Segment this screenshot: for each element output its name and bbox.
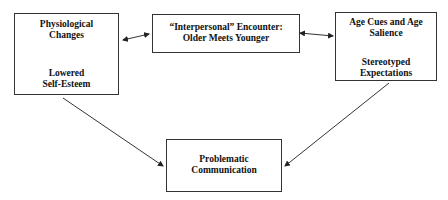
arrow-age-cues-to-problematic bbox=[285, 83, 389, 166]
label-line: Physiological bbox=[15, 19, 118, 30]
label-line: Lowered bbox=[15, 68, 118, 79]
lowered-self-esteem-label: Lowered Self-Esteem bbox=[15, 68, 118, 90]
label-line: “Interpersonal” Encounter: bbox=[153, 22, 299, 33]
physiological-changes-box: Physiological Changes Lowered Self-Estee… bbox=[14, 13, 119, 95]
bidirectional-arrow-right bbox=[300, 33, 333, 36]
label-line: Salience bbox=[336, 28, 436, 39]
age-cues-label: Age Cues and Age Salience bbox=[336, 17, 436, 39]
interpersonal-encounter-box: “Interpersonal” Encounter: Older Meets Y… bbox=[152, 14, 300, 53]
label-line: Age Cues and Age bbox=[336, 17, 436, 28]
arrow-physiological-to-problematic bbox=[63, 98, 163, 166]
age-cues-box: Age Cues and Age Salience Stereotyped Ex… bbox=[335, 12, 437, 81]
interpersonal-encounter-label: “Interpersonal” Encounter: Older Meets Y… bbox=[153, 22, 299, 44]
stereotyped-expectations-label: Stereotyped Expectations bbox=[336, 57, 436, 79]
label-line: Problematic bbox=[167, 154, 281, 165]
communication-model-diagram: Physiological Changes Lowered Self-Estee… bbox=[0, 0, 448, 200]
label-line: Older Meets Younger bbox=[153, 33, 299, 44]
label-line: Expectations bbox=[336, 68, 436, 79]
bidirectional-arrow-left bbox=[123, 34, 149, 40]
physiological-changes-label: Physiological Changes bbox=[15, 19, 118, 41]
label-line: Communication bbox=[167, 165, 281, 176]
label-line: Stereotyped bbox=[336, 57, 436, 68]
problematic-communication-box: Problematic Communication bbox=[166, 139, 282, 192]
label-line: Changes bbox=[15, 30, 118, 41]
problematic-communication-label: Problematic Communication bbox=[167, 154, 281, 176]
label-line: Self-Esteem bbox=[15, 79, 118, 90]
